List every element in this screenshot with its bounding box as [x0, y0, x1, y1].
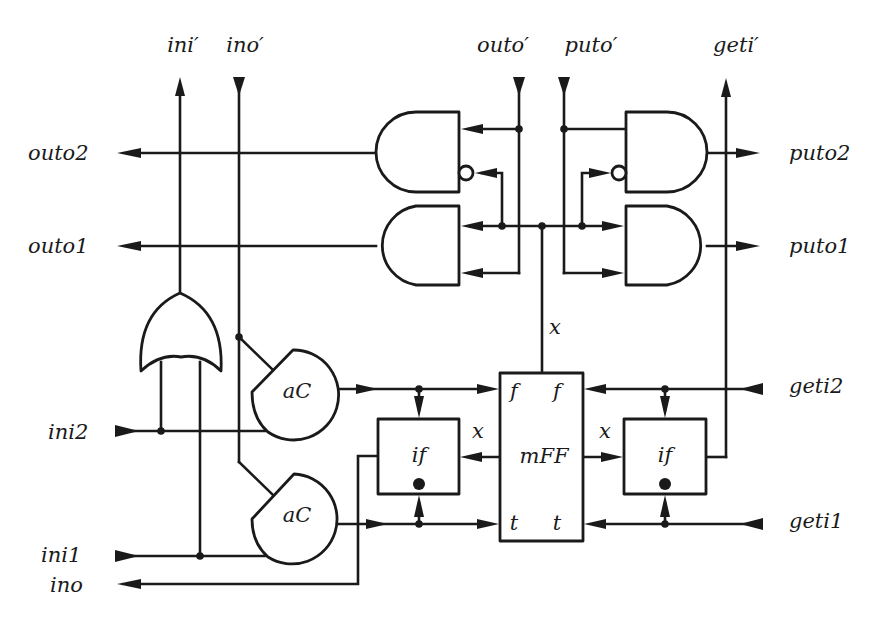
arrow-right-puto1: [736, 241, 760, 251]
wire-ino-prime-to-ac-lower: [239, 462, 273, 495]
arrow-if-left-f: [414, 396, 424, 418]
label-ac-lower: aC: [283, 503, 312, 527]
label-outo-prime: outo′: [477, 33, 529, 57]
junction-dot: [560, 125, 568, 133]
label-geti-prime: geti′: [713, 33, 759, 57]
arrow-ac-lower-out: [366, 519, 388, 529]
arrow-up-ini-prime: [175, 77, 185, 96]
junction-dot: [157, 427, 165, 435]
arrow-down-outo-prime: [513, 77, 525, 96]
junction-dot: [578, 222, 586, 230]
arrow-and-puto1-in-a: [602, 221, 624, 231]
gates: [141, 112, 707, 564]
arrow-and-puto1-in-b: [602, 268, 624, 278]
wire-x-inv-left: [482, 173, 502, 226]
circuit-diagram: ini′ ino′ outo′ puto′ geti′ outo2 outo1 …: [0, 0, 886, 617]
label-outo1: outo1: [28, 234, 89, 258]
if-right-marker-dot: [659, 478, 671, 490]
and-gate-outo2: [376, 112, 459, 192]
junction-dot: [415, 385, 423, 393]
arrow-if-right-f: [660, 396, 670, 418]
label-ini1: ini1: [41, 543, 81, 567]
arrow-mff-x-left: [460, 452, 482, 462]
junction-dot: [415, 520, 423, 528]
wire-x-inv-right: [582, 173, 600, 226]
label-ac-upper: aC: [283, 379, 312, 403]
label-geti2: geti2: [789, 374, 843, 398]
junction-dot: [538, 222, 546, 230]
and-gate-outo1: [382, 206, 459, 285]
arrow-in-geti1: [740, 518, 763, 530]
arrow-in-ini2: [115, 425, 139, 437]
arrow-left-ino: [117, 579, 141, 589]
inverter-bubble-right: [612, 166, 626, 180]
label-x-left: x: [472, 419, 484, 443]
label-puto-prime: puto′: [565, 33, 618, 57]
arrow-mff-f-left: [477, 384, 499, 394]
arrow-down-puto-prime: [558, 77, 570, 96]
arrow-mff-t-left: [477, 519, 499, 529]
or-gate-ini-prime: [141, 293, 222, 371]
arrow-left-outo2: [117, 148, 141, 158]
label-outo2: outo2: [28, 141, 89, 165]
arrow-in-geti2: [740, 383, 763, 395]
label-x-right: x: [599, 419, 611, 443]
junction-dot: [661, 520, 669, 528]
arrow-in-ini1: [115, 550, 139, 562]
junction-dot: [498, 222, 506, 230]
if-left-marker-dot: [413, 478, 425, 490]
arrow-left-outo1: [117, 241, 141, 251]
label-ini2: ini2: [48, 420, 88, 444]
label-puto1: puto1: [789, 234, 850, 258]
and-gate-puto1: [626, 206, 701, 285]
junction-dot: [661, 385, 669, 393]
arrow-if-right-t: [660, 495, 670, 517]
label-mff-t-left: t: [510, 511, 519, 535]
label-mff-t-right: t: [553, 511, 562, 535]
label-ino-prime: ino′: [226, 33, 264, 57]
label-ini-prime: ini′: [167, 33, 199, 57]
label-x-top: x: [549, 315, 561, 339]
arrow-down-ino-prime: [233, 77, 245, 96]
arrow-mff-f-right: [584, 384, 606, 394]
arrow-right-puto2: [736, 148, 760, 158]
label-puto2: puto2: [789, 141, 850, 165]
arrow-and-outo2-in: [461, 124, 483, 134]
junction-dot: [235, 333, 243, 341]
inverter-bubble-left: [459, 166, 473, 180]
arrow-mff-t-right: [584, 519, 606, 529]
label-geti1: geti1: [789, 509, 843, 533]
wire-ino-prime-to-ac-upper: [239, 337, 273, 370]
arrow-mff-x-right: [601, 452, 623, 462]
junction-dot: [515, 125, 523, 133]
arrow-ac-upper-out: [356, 384, 378, 394]
arrow-up-geti-prime: [721, 78, 731, 97]
arrow-and-outo2-inv-in: [475, 168, 497, 178]
label-mff: mFF: [519, 444, 569, 468]
label-ino: ino: [50, 573, 83, 597]
arrow-and-outo1-in-a: [461, 221, 483, 231]
arrow-and-outo1-in-b: [461, 268, 483, 278]
and-gate-puto2: [626, 112, 707, 192]
arrow-and-puto2-inv-in: [589, 168, 611, 178]
arrow-if-left-t: [414, 495, 424, 517]
junction-dot: [196, 552, 204, 560]
